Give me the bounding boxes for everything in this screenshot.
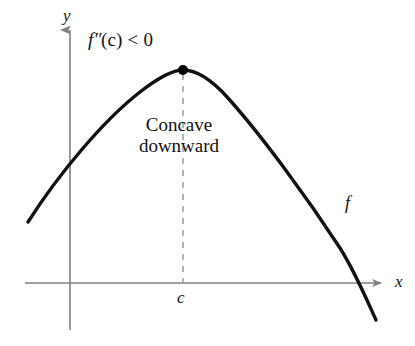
concavity-figure: f″(c) < 0 Concave downward y x c f [0,0,415,346]
concavity-annotation-line-1: Concave [126,114,232,135]
figure-canvas [0,0,415,346]
y-axis-label: y [63,6,71,25]
concavity-annotation: Concave downward [126,114,232,157]
critical-point-tick-label: c [177,288,185,307]
second-derivative-prime-marks: ″ [93,29,100,50]
second-derivative-condition-label: f″(c) < 0 [88,29,153,50]
x-axis-label: x [395,272,403,291]
concavity-annotation-line-2: downward [126,135,232,156]
vertex-point-marker [178,65,188,75]
function-curve-label: f [345,193,350,213]
second-derivative-relation-text: (c) < 0 [101,29,153,50]
